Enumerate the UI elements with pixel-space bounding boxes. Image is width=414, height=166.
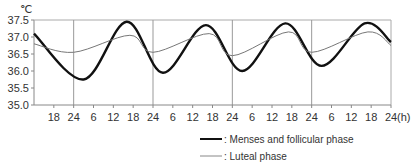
x-tick-label: 6 bbox=[249, 111, 255, 123]
legend-label-luteal: : Luteal phase bbox=[224, 151, 287, 162]
x-tick-label: 6 bbox=[90, 111, 96, 123]
y-tick-label: 37.5 bbox=[8, 14, 29, 26]
y-tick-label: 35.5 bbox=[8, 82, 29, 94]
x-tick-label: 12 bbox=[107, 111, 119, 123]
x-axis: 18246121824612182461218246121824(h) bbox=[34, 105, 410, 123]
x-tick-label: 24 bbox=[147, 111, 159, 123]
x-tick-label: 12 bbox=[266, 111, 278, 123]
x-tick-label: 6 bbox=[170, 111, 176, 123]
y-tick-label: 36.5 bbox=[8, 48, 29, 60]
x-tick-label: 24 bbox=[306, 111, 318, 123]
x-tick-label: 6 bbox=[328, 111, 334, 123]
series-lines bbox=[34, 22, 391, 80]
x-tick-label: 12 bbox=[187, 111, 199, 123]
x-tick-label: 18 bbox=[286, 111, 298, 123]
y-tick-label: 36.0 bbox=[8, 65, 29, 77]
chart: ℃ 35.035.536.036.537.037.5 1824612182461… bbox=[0, 0, 414, 166]
y-tick-label: 37.0 bbox=[8, 31, 29, 43]
x-tick-label: 24 bbox=[226, 111, 238, 123]
x-tick-label: 18 bbox=[365, 111, 377, 123]
x-tick-label: 24 bbox=[68, 111, 80, 123]
y-tick-label: 35.0 bbox=[8, 99, 29, 111]
y-axis: 35.035.536.036.537.037.5 bbox=[8, 14, 34, 111]
x-tick-label: 24 bbox=[385, 111, 397, 123]
x-unit-label: (h) bbox=[397, 111, 410, 123]
legend-label-menses: : Menses and follicular phase bbox=[224, 134, 354, 145]
x-tick-label: 18 bbox=[206, 111, 218, 123]
legend: : Menses and follicular phase : Luteal p… bbox=[200, 134, 354, 162]
x-tick-label: 18 bbox=[127, 111, 139, 123]
x-tick-label: 12 bbox=[345, 111, 357, 123]
x-tick-label: 18 bbox=[48, 111, 60, 123]
grid bbox=[34, 20, 391, 105]
series-line-menses bbox=[34, 22, 391, 80]
series-line-luteal bbox=[34, 32, 391, 56]
